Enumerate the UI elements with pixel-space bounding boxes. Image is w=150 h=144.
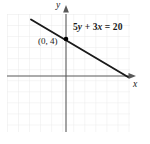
x-axis-label: x xyxy=(133,80,137,90)
y-axis-arrowhead xyxy=(63,5,69,13)
point-coordinate-label: (0, 4) xyxy=(38,37,58,46)
y-axis-label: y xyxy=(56,1,60,11)
graph-figure: 5y + 3x = 20 (0, 4) y x xyxy=(0,0,150,144)
equation-label: 5y + 3x = 20 xyxy=(73,23,123,33)
y-intercept-point xyxy=(64,37,69,42)
